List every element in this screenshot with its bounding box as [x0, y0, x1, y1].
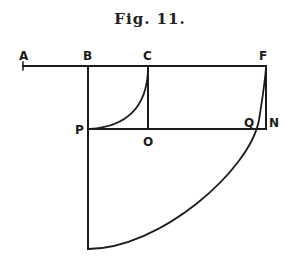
label-P: P — [75, 123, 84, 137]
label-A: A — [19, 49, 29, 63]
geometry-figure: Fig. 11. A B C F P O Q N — [0, 0, 295, 270]
arc-PC — [90, 70, 148, 129]
arc-large — [88, 68, 266, 249]
figure-caption: Fig. 11. — [114, 10, 185, 28]
label-Q: Q — [244, 116, 254, 130]
label-F: F — [259, 49, 267, 63]
label-O: O — [143, 135, 153, 149]
label-C: C — [143, 49, 152, 63]
label-B: B — [83, 49, 92, 63]
label-N: N — [269, 116, 279, 130]
